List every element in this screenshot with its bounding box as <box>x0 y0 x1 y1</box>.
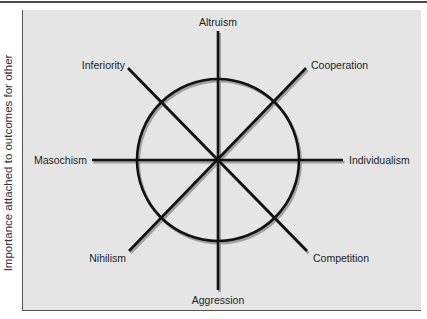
label-individualism: Individualism <box>349 154 410 166</box>
label-cooperation: Cooperation <box>311 59 368 71</box>
label-nihilism: Nihilism <box>89 252 126 264</box>
label-competition: Competition <box>313 252 369 264</box>
label-aggression: Aggression <box>192 294 245 306</box>
label-altruism: Altruism <box>199 16 237 28</box>
label-inferiority: Inferiority <box>82 59 126 71</box>
social-value-orientation-diagram: Altruism Cooperation Individualism Compe… <box>0 0 427 319</box>
label-masochism: Masochism <box>34 154 87 166</box>
